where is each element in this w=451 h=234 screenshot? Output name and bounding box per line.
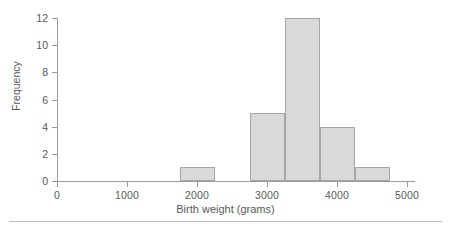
x-tick-label: 0 [27,189,87,201]
y-tick-label: 8 [20,66,48,78]
histogram-bar [180,167,215,181]
y-tick-label: 10 [20,39,48,51]
y-axis-title: Frequency [10,41,22,131]
y-tick-label: 2 [20,148,48,160]
x-tick-mark [337,182,338,187]
histogram-bar [285,18,320,181]
y-tick-label: 12 [20,12,48,24]
x-tick-mark [127,182,128,187]
x-tick-label: 4000 [307,189,367,201]
x-tick-mark [197,182,198,187]
x-tick-mark [267,182,268,187]
x-tick-mark [57,182,58,187]
y-tick-label: 0 [20,175,48,187]
histogram-bar [355,167,390,181]
histogram-figure: Frequency 024681012 01000200030004000500… [0,0,451,234]
x-tick-mark [407,182,408,187]
bottom-divider [9,221,442,222]
x-axis-line [57,181,415,182]
x-tick-label: 1000 [97,189,157,201]
x-tick-label: 5000 [377,189,437,201]
x-axis-title: Birth weight (grams) [0,203,451,215]
histogram-bar [320,127,355,181]
x-tick-label: 3000 [237,189,297,201]
histogram-bar [250,113,285,181]
y-tick-label: 6 [20,94,48,106]
x-tick-label: 2000 [167,189,227,201]
plot-area [57,18,415,181]
y-tick-label: 4 [20,121,48,133]
